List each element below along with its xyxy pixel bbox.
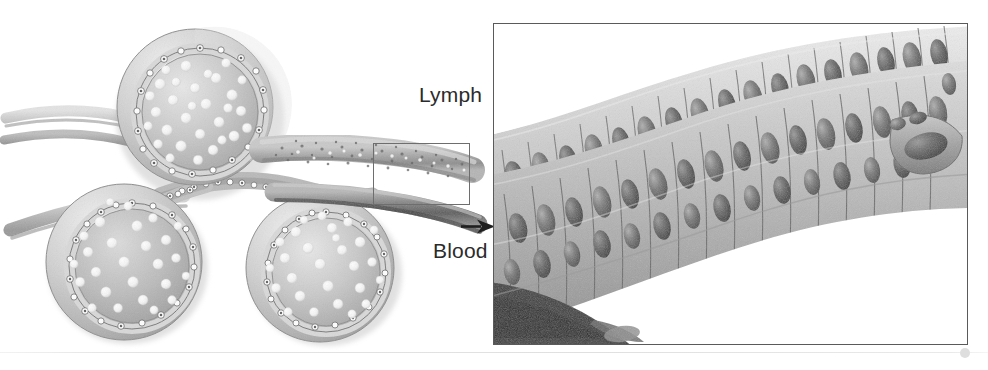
figure-root: Lymph Blood xyxy=(0,0,988,370)
page-corner-dot xyxy=(960,348,970,358)
label-blood: Blood xyxy=(433,240,488,261)
alveolus-sphere-lower-right xyxy=(246,194,394,342)
blood-pointer-arrow xyxy=(459,216,497,236)
magnified-vessel-wall-panel xyxy=(493,23,968,345)
alveolus-sphere-lower-left xyxy=(46,184,202,340)
page-divider xyxy=(0,352,988,353)
magnification-region-box xyxy=(373,143,470,205)
label-lymph: Lymph xyxy=(419,84,482,105)
